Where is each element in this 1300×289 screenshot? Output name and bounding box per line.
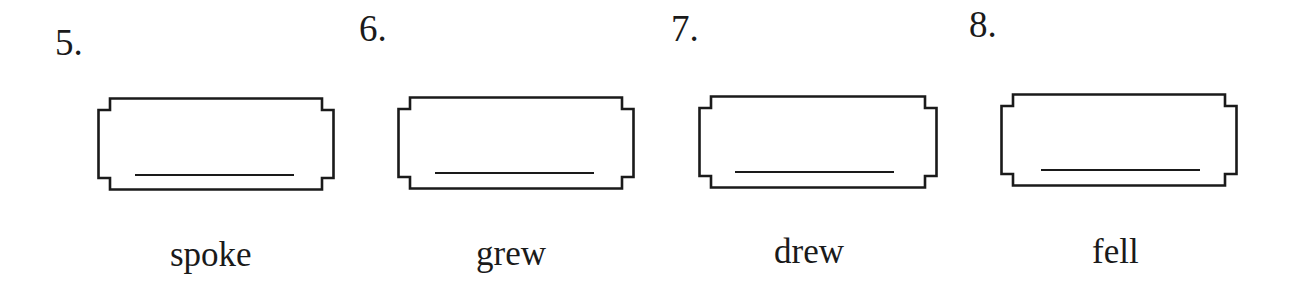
worksheet-item-8: 8. fell bbox=[0, 0, 300, 289]
word-label: fell bbox=[1092, 234, 1139, 269]
answer-box-frame-icon bbox=[698, 95, 938, 189]
item-number: 8. bbox=[969, 6, 997, 43]
answer-box[interactable] bbox=[1000, 93, 1238, 187]
answer-box[interactable] bbox=[698, 95, 938, 189]
answer-box-frame-icon bbox=[397, 96, 635, 190]
answer-box-frame-icon bbox=[1000, 93, 1238, 187]
word-label: grew bbox=[476, 236, 546, 271]
answer-box[interactable] bbox=[397, 96, 635, 190]
item-number: 6. bbox=[359, 10, 387, 47]
word-label: drew bbox=[774, 234, 844, 269]
item-number: 7. bbox=[671, 10, 699, 47]
